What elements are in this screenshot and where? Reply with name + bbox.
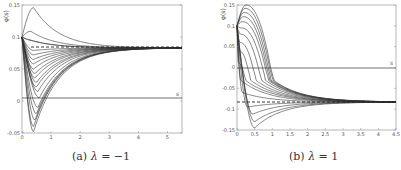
x-tick-label: 2.5 — [321, 131, 329, 137]
panel-a-plot: 0123450.150.10.050-0.05 φ(s) s — [2, 2, 182, 140]
x-tick-label: 2 — [306, 131, 309, 137]
x-tick-label: 5 — [166, 134, 169, 140]
x-tick-label: 3.5 — [357, 131, 365, 137]
x-tick-label: 1 — [49, 134, 52, 140]
panel-b-caption: (b) λ = 1 — [289, 150, 338, 163]
curve-curve-2 — [237, 8, 396, 101]
y-tick-label: 0 — [232, 64, 235, 70]
x-tick-label: 2 — [79, 134, 82, 140]
y-tick-label: -0.05 — [222, 85, 235, 91]
y-tick-label: 0.15 — [224, 2, 235, 8]
y-tick-label: -0.05 — [7, 130, 20, 136]
figure: 0123450.150.10.050-0.05 φ(s) s 00.511.52… — [0, 0, 401, 170]
y-tick-label: -0.1 — [225, 106, 235, 112]
x-tick-label: 3 — [108, 134, 111, 140]
x-tick-label: 1.5 — [286, 131, 294, 137]
panel-a-caption-value: = −1 — [98, 150, 130, 163]
y-tick-label: -0.15 — [222, 127, 235, 133]
panel-b-plot: 00.511.522.533.544.50.150.10.050-0.05-0.… — [219, 2, 400, 137]
panel-b-ylabel: φ(s) — [219, 8, 227, 20]
x-tick-label: 4 — [137, 134, 140, 140]
y-tick-label: 0.05 — [9, 66, 20, 72]
x-tick-label: 0 — [235, 131, 238, 137]
curve-curve-1 — [22, 8, 182, 48]
x-tick-label: 4.5 — [392, 131, 400, 137]
panel-b-ticks: 00.511.522.533.544.50.150.10.050-0.05-0.… — [222, 2, 400, 137]
panel-a-ylabel: φ(s) — [2, 10, 10, 22]
panel-a-s-label: s — [176, 90, 179, 97]
x-tick-label: 0 — [20, 134, 23, 140]
curve-curve-1 — [237, 5, 396, 102]
x-tick-label: 4 — [377, 131, 380, 137]
panel-a-caption: (a) λ = −1 — [72, 150, 130, 163]
y-tick-label: 0.1 — [12, 34, 20, 40]
y-tick-label: 0.1 — [227, 23, 235, 29]
panel-b-caption-prefix: (b) — [289, 150, 305, 163]
panel-a-caption-prefix: (a) — [72, 150, 87, 163]
y-tick-label: 0.15 — [9, 2, 20, 8]
x-tick-label: 1 — [271, 131, 274, 137]
panel-a-curves — [22, 8, 182, 132]
x-tick-label: 3 — [341, 131, 344, 137]
x-tick-label: 0.5 — [251, 131, 259, 137]
panel-b-caption-value: = 1 — [315, 150, 338, 163]
panel-b-curves — [237, 5, 396, 128]
y-tick-label: 0 — [17, 98, 20, 104]
panel-a-ticks: 0123450.150.10.050-0.05 — [7, 2, 182, 140]
y-tick-label: 0.05 — [224, 43, 235, 49]
panel-a-caption-lambda: λ — [91, 150, 98, 163]
panel-a-axes-box — [22, 5, 182, 133]
curve-curve-15 — [237, 26, 396, 122]
panel-b-s-label: s — [390, 59, 393, 66]
